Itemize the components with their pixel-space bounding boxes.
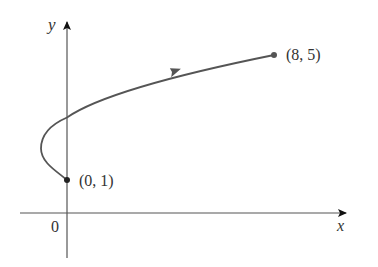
start-point xyxy=(64,177,70,183)
origin-label: 0 xyxy=(51,218,59,235)
parametric-curve xyxy=(41,55,274,180)
y-axis-label: y xyxy=(46,15,56,34)
start-point-label: (0, 1) xyxy=(79,172,114,190)
x-axis-label: x xyxy=(336,217,344,234)
parametric-curve-diagram: y x 0 (0, 1) (8, 5) xyxy=(0,0,378,267)
end-point-label: (8, 5) xyxy=(286,46,321,64)
end-point xyxy=(271,52,277,58)
